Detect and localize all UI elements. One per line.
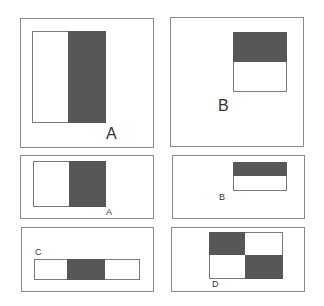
label-a: A	[106, 126, 117, 142]
label-a-small: A	[106, 208, 112, 217]
feature-b-small-dark-region	[233, 162, 287, 176]
feature-a-dark-region	[68, 31, 106, 123]
feature-a-small-dark-region	[69, 161, 106, 207]
label-c: C	[35, 248, 42, 257]
feature-d-dark-top-left	[209, 232, 245, 255]
feature-c-dark-region	[67, 259, 105, 280]
label-d: D	[212, 280, 219, 289]
feature-b-dark-region	[233, 32, 287, 62]
label-b: B	[218, 98, 229, 114]
label-b-small: B	[219, 193, 225, 202]
feature-d-dark-bottom-right	[245, 255, 283, 279]
